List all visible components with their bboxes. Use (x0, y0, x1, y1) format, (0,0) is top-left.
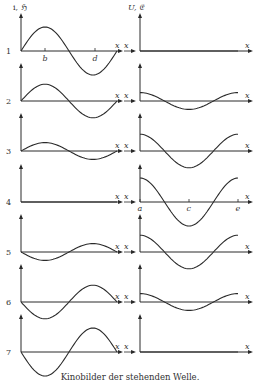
tick-label: e (236, 204, 241, 213)
y-axis-arrow-icon (19, 63, 23, 68)
x-axis-label: x (115, 242, 120, 251)
y-axis-arrow-icon (138, 164, 142, 169)
x-axis-label: x (124, 342, 129, 351)
x-axis-label: x (115, 141, 120, 150)
frame-number-label: 5 (6, 248, 11, 257)
y-axis-arrow-icon (19, 113, 23, 118)
x-axis-arrow-icon (131, 250, 136, 254)
figure-caption: Kinobilder der stehenden Welle. (0, 372, 260, 382)
tick-label: c (187, 204, 192, 213)
tick-label: b (43, 54, 48, 63)
frame-number-label: 6 (6, 298, 11, 307)
frame-number-label: 2 (6, 97, 11, 106)
y-axis-arrow-icon (138, 314, 142, 319)
x-axis-label: x (245, 41, 250, 50)
x-axis-label: x (115, 41, 120, 50)
x-axis-label: x (245, 242, 250, 251)
y-axis-arrow-icon (19, 164, 23, 169)
x-axis-label: x (124, 192, 129, 201)
y-axis-arrow-icon (138, 214, 142, 219)
x-axis-label: x (124, 141, 129, 150)
x-axis-label: x (245, 192, 250, 201)
frame-number-label: 1 (6, 47, 11, 56)
x-axis-arrow-icon (131, 149, 136, 153)
y-axis-arrow-icon (19, 13, 23, 18)
tick-label: a (138, 204, 143, 213)
y-axis-arrow-icon (138, 13, 142, 18)
x-axis-label: x (115, 192, 120, 201)
standing-wave-figure: x1xxx2xxx3xxx4xxx5xxx6xxx7xxi, ℌU, 𝔈bdac… (0, 0, 260, 389)
x-axis-label: x (124, 242, 129, 251)
x-axis-label: x (124, 41, 129, 50)
x-axis-arrow-icon (131, 99, 136, 103)
x-axis-label: x (245, 342, 250, 351)
y-axis-arrow-icon (138, 264, 142, 269)
y-axis-arrow-icon (19, 314, 23, 319)
y-axis-arrow-icon (19, 214, 23, 219)
y-axis-arrow-icon (138, 113, 142, 118)
right-axis-title: U, 𝔈 (128, 3, 146, 12)
x-axis-label: x (124, 292, 129, 301)
x-axis-label: x (115, 292, 120, 301)
y-axis-arrow-icon (19, 264, 23, 269)
x-axis-arrow-icon (131, 49, 136, 53)
x-axis-arrow-icon (131, 200, 136, 204)
x-axis-label: x (245, 141, 250, 150)
x-axis-label: x (115, 91, 120, 100)
x-axis-label: x (245, 91, 250, 100)
x-axis-arrow-icon (131, 350, 136, 354)
tick-label: d (93, 54, 98, 63)
x-axis-arrow-icon (131, 300, 136, 304)
frame-number-label: 7 (6, 348, 11, 357)
frame-number-label: 4 (6, 198, 11, 207)
left-axis-title: i, ℌ (13, 3, 27, 12)
frame-number-label: 3 (6, 147, 11, 156)
y-axis-arrow-icon (138, 63, 142, 68)
x-axis-label: x (245, 292, 250, 301)
x-axis-label: x (124, 91, 129, 100)
